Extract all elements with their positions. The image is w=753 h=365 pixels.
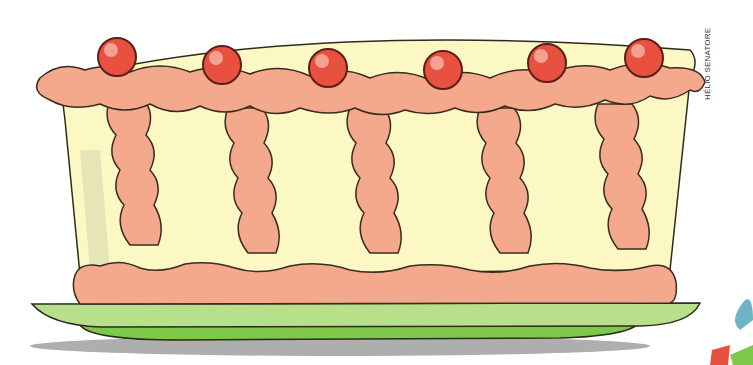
illustration-canvas: HÉLIO SENATORE [0,0,753,365]
cake-illustration [0,0,753,365]
artist-credit: HÉLIO SENATORE [703,28,712,100]
plate [32,303,700,340]
corner-decoration [710,299,753,365]
